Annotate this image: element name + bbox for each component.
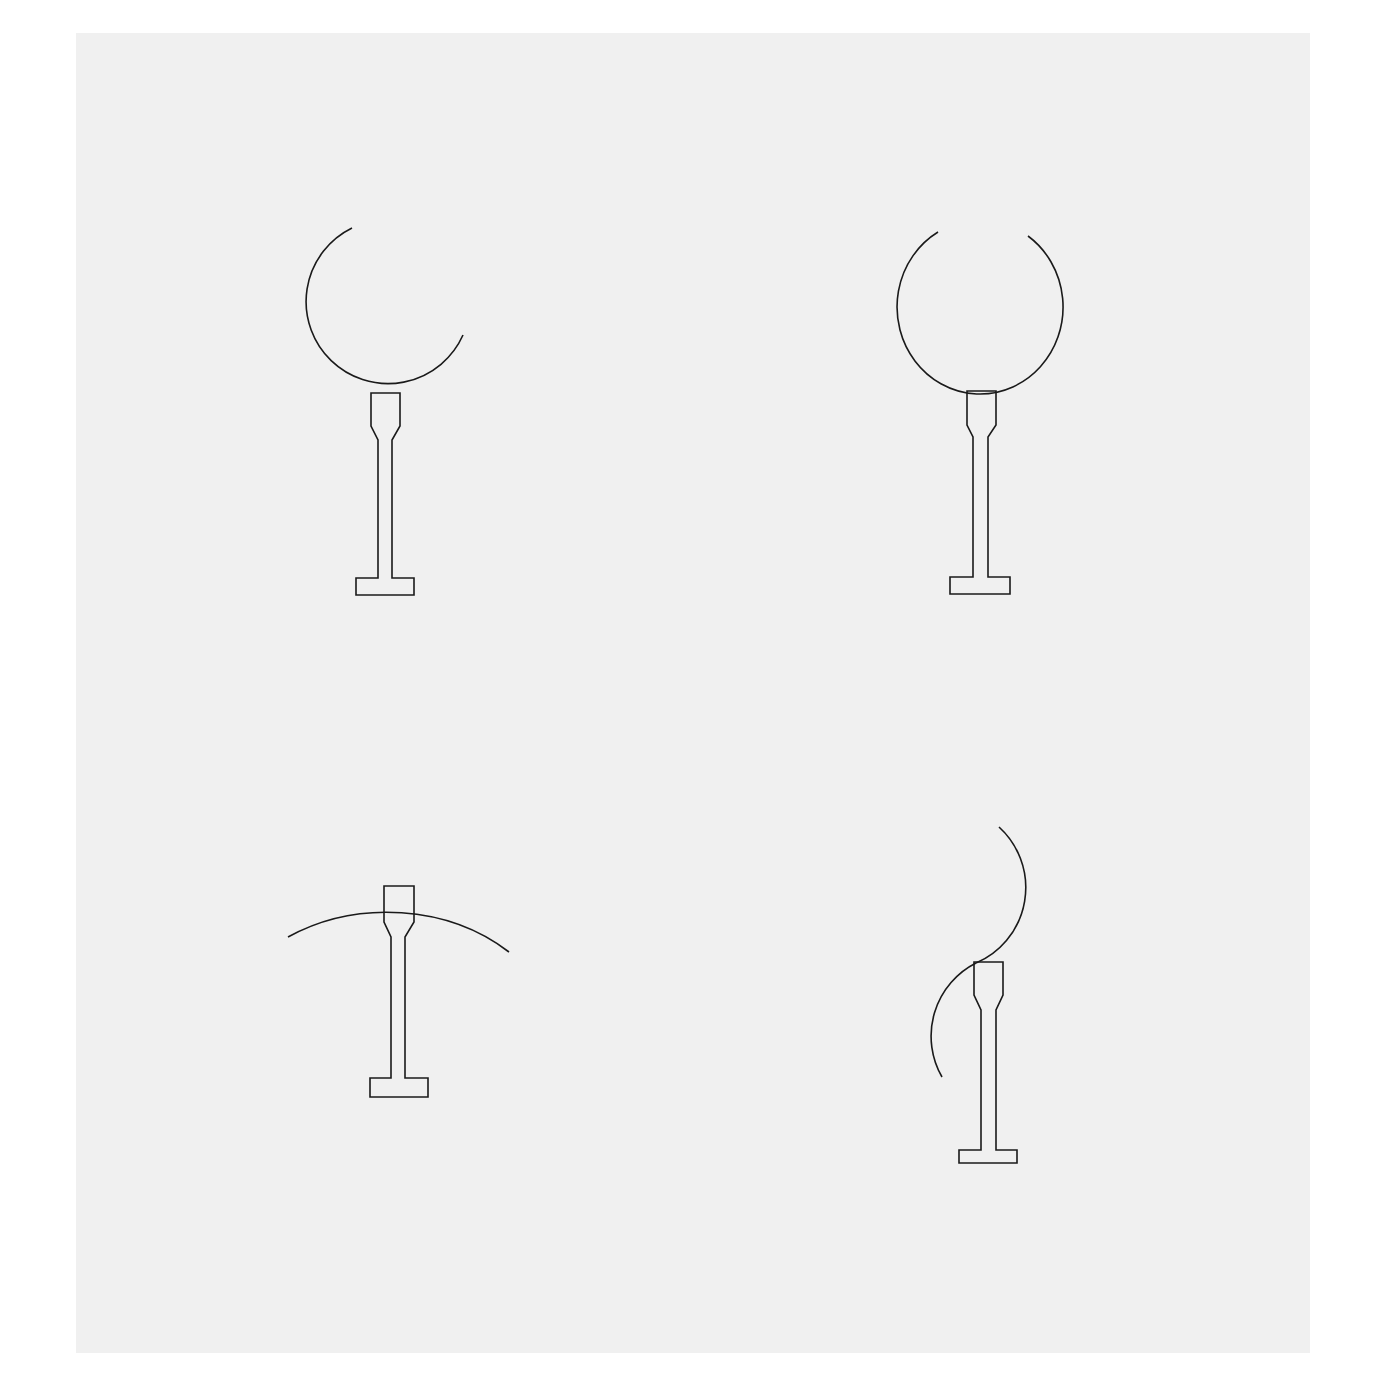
figure-3-stem — [370, 886, 428, 1097]
figure-2 — [897, 232, 1063, 594]
figure-4-arc-upper — [976, 827, 1026, 963]
figure-2-arc — [897, 232, 1063, 394]
figure-3-arc — [288, 912, 509, 952]
figure-1-arc — [306, 228, 463, 384]
figure-4 — [931, 827, 1026, 1163]
figure-2-stem — [950, 391, 1010, 594]
figure-4-stem — [959, 962, 1017, 1163]
figure-1 — [306, 228, 463, 595]
figure-3 — [288, 886, 509, 1097]
figure-4-arc-lower — [931, 963, 976, 1077]
diagram-canvas — [0, 0, 1379, 1392]
figure-1-stem — [356, 393, 414, 595]
